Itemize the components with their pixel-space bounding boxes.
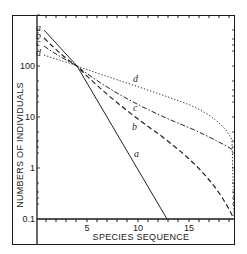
curve-b — [44, 38, 233, 217]
right-axis-ticks — [232, 30, 235, 204]
curve-c-mid-label: c — [133, 102, 138, 113]
curve-b-mid-label: b — [132, 121, 137, 132]
curve-a-mid-label: a — [134, 148, 139, 159]
y-tick-100: 100 — [20, 61, 35, 71]
x-axis-title: SPECIES SEQUENCE — [93, 232, 190, 242]
top-ticks — [46, 15, 229, 18]
species-abundance-chart: a b c d a b c d 100 10 1 0.1 5 10 15 SPE… — [0, 0, 247, 254]
curve-d-mid-label: d — [133, 73, 139, 84]
curve-d-start-label: d — [36, 47, 42, 58]
x-tick-5: 5 — [84, 223, 89, 233]
y-tick-10: 10 — [25, 112, 35, 122]
y-tick-1: 1 — [30, 163, 35, 173]
y-tick-0-1: 0.1 — [22, 214, 35, 224]
curve-d — [44, 55, 234, 218]
y-axis-title: NUMBERS OF INDIVIDUALS — [15, 82, 25, 208]
